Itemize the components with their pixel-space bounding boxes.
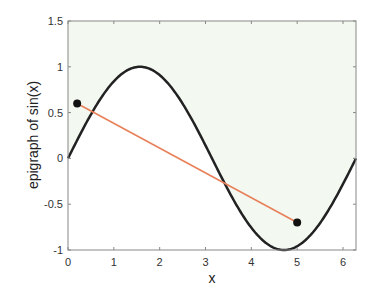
y-tick-label: -0.5	[44, 198, 63, 210]
x-tick-label: 2	[157, 256, 163, 268]
x-tick-label: 3	[202, 256, 208, 268]
x-tick-label: 0	[65, 256, 71, 268]
y-axis-label: epigraph of sin(x)	[25, 81, 41, 189]
y-tick-label: 1.5	[48, 15, 63, 27]
x-axis-label: x	[209, 270, 216, 286]
chord-endpoint-left	[73, 99, 81, 107]
epigraph-chart: 0123456 -1-0.500.511.5 x epigraph of sin…	[0, 0, 375, 295]
x-tick-label: 5	[294, 256, 300, 268]
y-tick-label: 0.5	[48, 107, 63, 119]
chord-endpoint-right	[293, 219, 301, 227]
x-tick-label: 6	[340, 256, 346, 268]
y-tick-label: 0	[57, 152, 63, 164]
plot-area	[68, 21, 356, 250]
y-tick-label: -1	[53, 244, 63, 256]
x-tick-label: 4	[248, 256, 254, 268]
y-tick-label: 1	[57, 61, 63, 73]
x-tick-label: 1	[111, 256, 117, 268]
